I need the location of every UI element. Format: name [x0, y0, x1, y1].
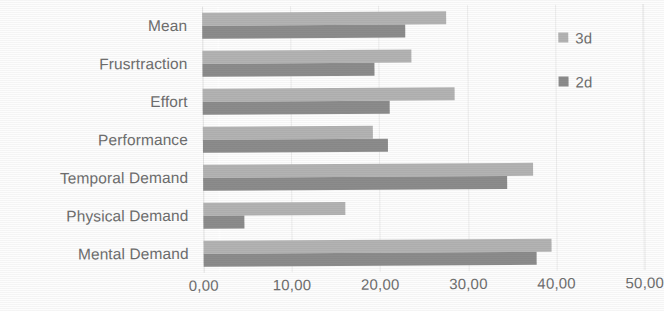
legend-label: 2d — [576, 73, 593, 90]
bar-2d — [202, 63, 374, 77]
legend-label: 3d — [575, 29, 592, 46]
category-label: Physical Demand — [66, 206, 188, 227]
category-label: Effort — [150, 92, 187, 112]
category-label: Mental Demand — [78, 244, 189, 265]
category-label: Temporal Demand — [60, 168, 188, 189]
legend-item[interactable]: 2d — [558, 70, 638, 92]
legend-item[interactable]: 3d — [558, 26, 638, 48]
bar-2d — [203, 176, 507, 191]
bar-2d — [203, 139, 388, 153]
bar-2d — [204, 252, 537, 267]
category-label: Performance — [98, 130, 188, 151]
bar-2d — [203, 101, 390, 115]
value-axis-tick-labels: 0,0010,0020,0030,0040,0050,00 — [204, 274, 645, 301]
bar-2d — [203, 216, 244, 229]
bar-group — [203, 124, 644, 153]
value-axis-tick-label: 50,00 — [625, 274, 664, 291]
value-axis-tick-label: 0,00 — [189, 277, 219, 294]
bar-group — [204, 238, 645, 267]
bar-2d — [202, 25, 405, 39]
category-label: Frusrtraction — [99, 54, 187, 75]
bar-3d — [203, 202, 345, 216]
nasa-tlx-bar-chart: Mental DemandPhysical DemandTemporal Dem… — [0, 0, 664, 311]
bar-group — [203, 200, 644, 229]
chart-legend: 3d2d — [558, 26, 639, 114]
category-axis-labels: Mental DemandPhysical DemandTemporal Dem… — [0, 1, 197, 274]
bar-3d — [202, 11, 446, 25]
bar-3d — [203, 126, 373, 140]
chart-canvas: Mental DemandPhysical DemandTemporal Dem… — [0, 0, 664, 311]
legend-swatch-3d — [558, 33, 568, 43]
value-axis-tick-label: 10,00 — [273, 276, 312, 293]
bar-group — [203, 162, 644, 191]
category-label: Mean — [148, 16, 187, 36]
bar-3d — [203, 87, 455, 102]
value-axis-tick-label: 30,00 — [449, 275, 488, 292]
value-axis-tick-label: 40,00 — [537, 275, 576, 292]
legend-swatch-2d — [559, 77, 569, 87]
bar-3d — [202, 50, 411, 64]
value-axis-tick-label: 20,00 — [361, 276, 400, 293]
